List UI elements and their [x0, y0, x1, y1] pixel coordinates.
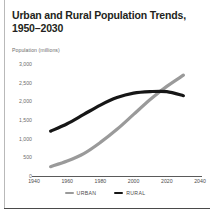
- x-axis-tick: 1980: [95, 178, 107, 184]
- legend-item-rural[interactable]: RURAL: [114, 190, 145, 196]
- chart-title-line-2: 1950–2030: [12, 22, 63, 34]
- series-lines: [34, 64, 200, 176]
- chart-title: Urban and Rural Population Trends, 1950–…: [12, 9, 202, 34]
- rural-line: [51, 91, 184, 131]
- y-axis-tick: 3,000: [6, 61, 32, 67]
- card-bottom-divider: [4, 208, 210, 209]
- y-axis-tick: 1,500: [6, 117, 32, 123]
- x-axis-line: [32, 176, 202, 177]
- x-axis-tick: 1960: [61, 178, 73, 184]
- y-axis-tick: 2,000: [6, 98, 32, 104]
- x-axis-tick: 2040: [194, 178, 206, 184]
- chart-card: Urban and Rural Population Trends, 1950–…: [0, 0, 210, 223]
- chart-title-line-1: Urban and Rural Population Trends,: [12, 9, 186, 21]
- legend-item-urban[interactable]: URBAN: [65, 190, 97, 196]
- legend-swatch-urban: [65, 192, 74, 194]
- plot-wrapper: 3,0002,5002,0001,5001,0005000 1940196019…: [0, 56, 210, 182]
- legend-swatch-rural: [114, 192, 123, 194]
- legend-label: URBAN: [77, 190, 97, 196]
- y-axis-tick: 2,500: [6, 80, 32, 86]
- y-axis-tick-labels: 3,0002,5002,0001,5001,0005000: [6, 56, 32, 182]
- legend-label: RURAL: [126, 190, 145, 196]
- x-axis-tick: 2020: [161, 178, 173, 184]
- plot-area: [34, 64, 200, 176]
- x-axis-tick: 2000: [128, 178, 140, 184]
- y-axis-tick: 1,000: [6, 136, 32, 142]
- x-axis-tick: 1940: [28, 178, 40, 184]
- y-axis-tick: 500: [6, 154, 32, 160]
- y-axis-label: Population (millions): [12, 47, 60, 53]
- x-axis-tick-labels: 194019601980200020202040: [0, 178, 210, 190]
- chart-legend: URBANRURAL: [0, 190, 210, 196]
